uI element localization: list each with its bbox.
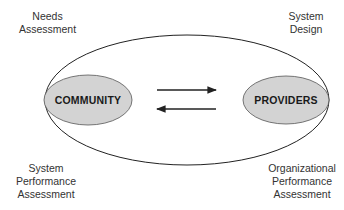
label-line: System bbox=[276, 10, 336, 23]
label-line: Assessment bbox=[10, 23, 85, 36]
label-line: Performance bbox=[10, 175, 82, 188]
label-line: Performance bbox=[262, 175, 342, 188]
label-line: Organizational bbox=[262, 162, 342, 175]
system-performance-assessment-label: System Performance Assessment bbox=[10, 162, 82, 201]
providers-label: PROVIDERS bbox=[243, 94, 329, 106]
label-line: Needs bbox=[10, 10, 85, 23]
label-line: Design bbox=[276, 23, 336, 36]
system-design-label: System Design bbox=[276, 10, 336, 36]
needs-assessment-label: Needs Assessment bbox=[10, 10, 85, 36]
community-label: COMMUNITY bbox=[44, 94, 132, 106]
organizational-performance-assessment-label: Organizational Performance Assessment bbox=[262, 162, 342, 201]
label-line: System bbox=[10, 162, 82, 175]
label-line: Assessment bbox=[262, 188, 342, 201]
label-line: Assessment bbox=[10, 188, 82, 201]
